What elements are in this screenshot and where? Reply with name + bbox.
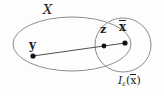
point-y-label: y [29, 39, 36, 51]
point-xbar-label: x [119, 21, 126, 33]
set-x-label: X [43, 3, 52, 16]
epsilon-ball-label: Iε(x) [118, 75, 141, 88]
point-y-dot [30, 53, 35, 58]
segment-y-to-xbar [33, 43, 125, 56]
figure-canvas: X y z x Iε(x) [0, 0, 164, 96]
ball-arg-text: x [130, 75, 136, 86]
ball-close-paren: ) [137, 74, 141, 87]
point-z-dot [102, 44, 107, 49]
point-z-label-text: z [100, 23, 106, 36]
set-x-label-text: X [43, 2, 52, 17]
point-y-label-text: y [29, 38, 36, 52]
point-xbar-label-text: x [119, 21, 126, 33]
point-xbar-dot [122, 40, 127, 45]
point-z-label: z [100, 24, 106, 35]
